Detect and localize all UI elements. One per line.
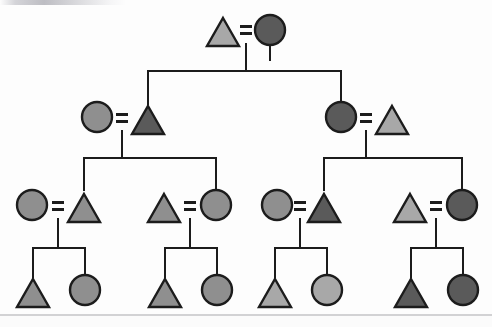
mating-I-1-equals-bar-top — [240, 25, 252, 28]
individual-IV-6-circle-symbol[interactable] — [312, 275, 342, 305]
mating-I-1-equals-bar-bottom — [240, 32, 252, 35]
individual-III-8-circle-symbol[interactable] — [447, 190, 477, 220]
individual-IV-2-circle-symbol[interactable] — [70, 275, 100, 305]
mating-III-4-equals-bar-top — [430, 201, 442, 204]
individual-II-2-triangle-symbol[interactable] — [132, 106, 164, 134]
mating-II-2-equals-bar-top — [360, 113, 372, 116]
mating-III-3-equals-bar-top — [294, 201, 306, 204]
mating-III-1-equals-icon — [52, 201, 64, 211]
individual-II-4-triangle-symbol[interactable] — [376, 106, 408, 134]
mating-III-3-equals-icon — [294, 201, 306, 211]
individual-II-1-circle-symbol[interactable] — [82, 102, 112, 132]
individual-II-3-circle-symbol[interactable] — [326, 102, 356, 132]
individual-IV-5-triangle-symbol[interactable] — [259, 279, 291, 307]
individual-IV-4-circle-symbol[interactable] — [202, 275, 232, 305]
individual-III-2-triangle-symbol[interactable] — [68, 194, 100, 222]
pedigree-diagram — [0, 0, 492, 327]
mating-III-2-equals-bar-top — [184, 201, 196, 204]
individual-I-1-triangle-symbol[interactable] — [207, 18, 239, 46]
pedigree-chart — [0, 0, 492, 327]
individual-III-3-triangle-symbol[interactable] — [148, 194, 180, 222]
individual-III-7-triangle-symbol[interactable] — [394, 194, 426, 222]
mating-III-1-equals-bar-top — [52, 201, 64, 204]
individual-IV-7-triangle-symbol[interactable] — [395, 279, 427, 307]
mating-III-1-equals-bar-bottom — [52, 208, 64, 211]
mating-III-2-equals-icon — [184, 201, 196, 211]
mating-III-4-equals-bar-bottom — [430, 208, 442, 211]
connector-lines-layer — [33, 44, 463, 277]
mating-II-2-equals-bar-bottom — [360, 120, 372, 123]
mating-II-1-equals-icon — [116, 113, 128, 123]
mating-II-1-equals-bar-bottom — [116, 120, 128, 123]
individual-IV-8-circle-symbol[interactable] — [448, 275, 478, 305]
individual-IV-3-triangle-symbol[interactable] — [149, 279, 181, 307]
mating-I-1-equals-icon — [240, 25, 252, 35]
mating-II-2-equals-icon — [360, 113, 372, 123]
individual-symbols-layer — [17, 15, 478, 307]
individual-III-5-circle-symbol[interactable] — [262, 190, 292, 220]
individual-III-6-triangle-symbol[interactable] — [308, 194, 340, 222]
individual-IV-1-triangle-symbol[interactable] — [17, 279, 49, 307]
mating-II-1-equals-bar-top — [116, 113, 128, 116]
individual-III-4-circle-symbol[interactable] — [201, 190, 231, 220]
mating-III-4-equals-icon — [430, 201, 442, 211]
mating-III-2-equals-bar-bottom — [184, 208, 196, 211]
page-margin-strip — [0, 316, 492, 327]
mating-III-3-equals-bar-bottom — [294, 208, 306, 211]
individual-I-2-circle-symbol[interactable] — [255, 15, 285, 45]
individual-III-1-circle-symbol[interactable] — [17, 190, 47, 220]
